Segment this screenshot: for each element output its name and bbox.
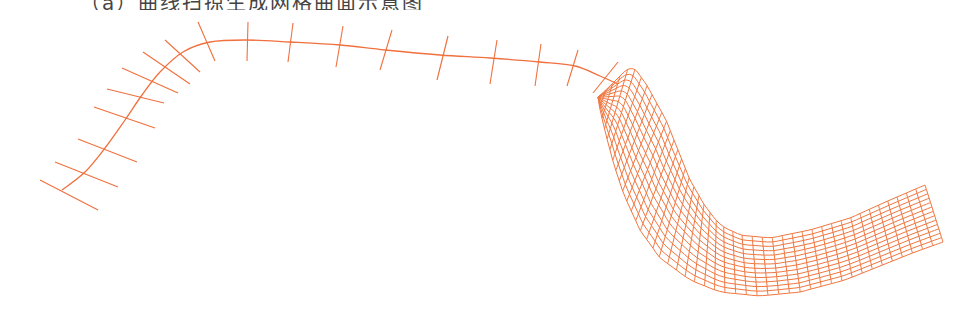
normal-tick bbox=[490, 40, 497, 84]
normal-tick bbox=[247, 22, 248, 61]
normal-tick bbox=[165, 40, 200, 72]
normal-tick bbox=[94, 107, 155, 128]
mesh-row-line bbox=[598, 74, 926, 242]
normal-ticks bbox=[40, 22, 618, 210]
normal-tick bbox=[535, 44, 541, 86]
normal-tick bbox=[78, 139, 137, 162]
mesh-column-line bbox=[647, 150, 678, 240]
mesh-column-line bbox=[851, 218, 862, 273]
diagram-canvas bbox=[0, 0, 967, 311]
mesh-row-line bbox=[598, 80, 928, 246]
normal-tick bbox=[437, 36, 448, 80]
swept-mesh-figure bbox=[598, 69, 943, 296]
normal-tick bbox=[107, 89, 164, 103]
normal-tick bbox=[55, 162, 118, 187]
mesh-column-line bbox=[841, 221, 852, 277]
mesh-column-line bbox=[616, 86, 647, 171]
spine-curve-path bbox=[62, 40, 618, 190]
mesh-column-line bbox=[831, 224, 842, 281]
normal-tick bbox=[336, 26, 343, 67]
mesh-column-line bbox=[822, 226, 832, 283]
mesh-column-line bbox=[653, 159, 682, 248]
normal-tick bbox=[567, 50, 578, 86]
normal-tick bbox=[122, 68, 178, 93]
mesh-row-line bbox=[598, 97, 943, 296]
spine-curve-figure bbox=[40, 22, 618, 210]
mesh-column-line bbox=[812, 229, 821, 286]
normal-tick bbox=[593, 62, 618, 93]
mesh-column-line bbox=[704, 212, 710, 285]
